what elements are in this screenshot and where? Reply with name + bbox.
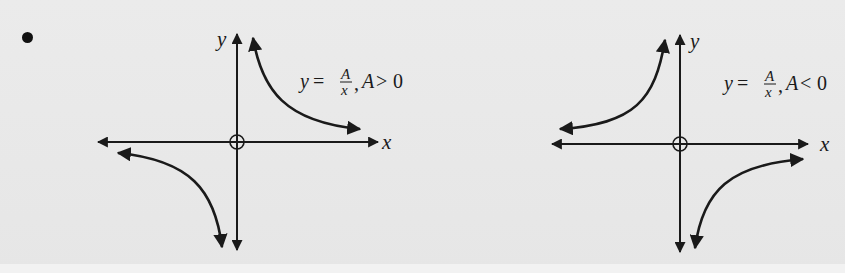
- eq-condition-var: A: [784, 72, 799, 94]
- y-axis-label: y: [688, 29, 700, 53]
- x-axis-label: x: [819, 132, 830, 156]
- branch-quadrant-4: [695, 159, 803, 248]
- eq-separator: ,: [778, 74, 783, 96]
- equation-negative: y = A x , A < 0: [722, 68, 827, 100]
- page-edge: [0, 264, 845, 273]
- eq-denominator: x: [764, 84, 772, 100]
- eq-condition-val: 0: [817, 72, 827, 94]
- eq-numerator: A: [764, 68, 775, 84]
- eq-lhs: y: [722, 72, 733, 95]
- branch-quadrant-2: [560, 40, 665, 129]
- figure-page: y x y = A x , A > 0 y x y: [0, 0, 845, 273]
- graph-a-negative: y x y = A x , A < 0: [0, 0, 845, 273]
- eq-equals: =: [737, 72, 748, 94]
- eq-condition-op: <: [800, 72, 811, 94]
